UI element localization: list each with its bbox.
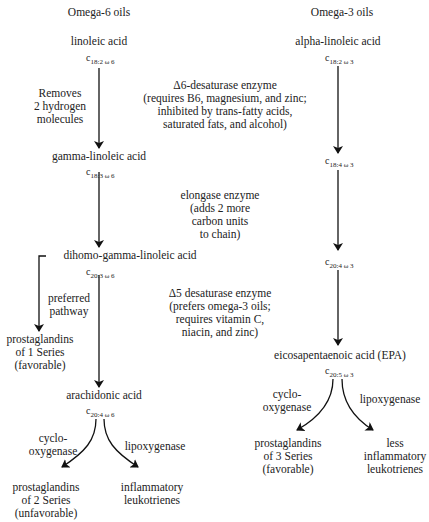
output-prostaglandins-3: prostaglandins of 3 Series (favorable) <box>248 437 328 476</box>
output-prostaglandins-2: prostaglandins of 2 Series (unfavorable) <box>6 481 86 520</box>
omega6-title: Omega-6 oils <box>59 6 139 19</box>
output-less-inflammatory-leukotrienes: less inflammatory leukotrienes <box>360 437 429 476</box>
formula-20-4-w6: c20:4 ω 6 <box>86 405 115 419</box>
enzyme-delta6-desaturase: Δ6-desaturase enzyme (requires B6, magne… <box>140 79 310 131</box>
omega3-title: Omega-3 oils <box>302 6 382 19</box>
node-dihomo-gamma-linoleic-acid: dihomo-gamma-linoleic acid <box>50 249 210 262</box>
node-arachidonic-acid: arachidonic acid <box>54 389 154 402</box>
formula-20-4-w3: c20:4 ω 3 <box>325 256 354 270</box>
enzyme-delta5-desaturase: Δ5 desaturase enzyme (prefers omega-3 oi… <box>160 287 280 339</box>
node-linoleic-acid: linoleic acid <box>49 35 149 48</box>
formula-18-2-w6: c18:2 ω 6 <box>86 52 115 66</box>
label-cyclooxygenase-3: cyclo- oxygenase <box>262 388 312 414</box>
formula-18-3-w6: c18:3 ω 6 <box>86 166 115 180</box>
output-inflammatory-leukotrienes: inflammatory leukotrienes <box>112 481 192 507</box>
output-prostaglandins-1: prostaglandins of 1 Series (favorable) <box>0 333 80 372</box>
node-gamma-linoleic-acid: gamma-linoleic acid <box>34 150 164 163</box>
formula-18-2-w3: c18:2 ω 3 <box>325 52 354 66</box>
formula-20-5-w3: c20:5 ω 3 <box>325 365 354 379</box>
label-lipoxygenase-3: lipoxygenase <box>355 393 425 406</box>
formula-18-4-w3: c18:4 ω 3 <box>325 155 354 169</box>
label-preferred-pathway: preferred pathway <box>44 292 94 318</box>
label-removes-hydrogen: Removes 2 hydrogen molecules <box>28 87 92 126</box>
label-cyclooxygenase-6: cyclo- oxygenase <box>28 432 78 458</box>
formula-20-3-w6: c20:3 ω 6 <box>86 266 115 280</box>
node-alpha-linoleic-acid: alpha-linoleic acid <box>288 35 388 48</box>
enzyme-elongase: elongase enzyme (adds 2 more carbon unit… <box>170 189 270 241</box>
node-eicosapentaenoic-acid: eicosapentaenoic acid (EPA) <box>270 349 410 362</box>
label-lipoxygenase-6: lipoxygenase <box>120 440 190 453</box>
